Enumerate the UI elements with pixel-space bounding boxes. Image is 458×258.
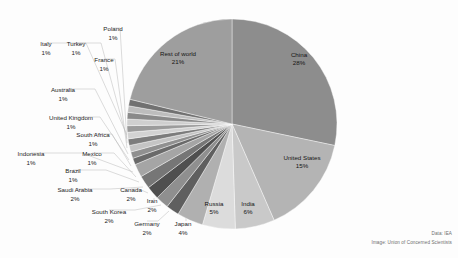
slice-label-percent: 15% [296,162,309,169]
slice-label-name: Russia [205,200,224,207]
slice-label-percent: 1% [27,159,36,166]
slice-label-percent: 1% [109,34,118,41]
slice-label-name: Mexico [82,150,102,157]
slice-label-percent: 21% [172,58,185,65]
slice-label-percent: 2% [71,195,80,202]
slice-label-name: Iran [147,197,158,204]
slice-label-name: South Africa [76,131,110,138]
slice-label-name: Saudi Arabia [57,186,93,193]
slice-label-name: India [241,200,255,207]
credit-image-source: Image: Union of Concerned Scientists [372,240,452,245]
slice-label-percent: 1% [100,65,109,72]
leader-line [73,170,139,182]
slice-label-name: Germany [134,220,160,227]
slice-label-name: United States [283,154,320,161]
slice-label-name: Italy [40,40,52,47]
slice-label-percent: 2% [148,206,157,213]
slice-label-name: Brazil [65,167,80,174]
leader-line [113,28,127,143]
pie-chart: China28%United States15%India6%Russia5%J… [0,0,458,258]
slice-label-percent: 2% [105,217,114,224]
slice-label-percent: 5% [210,208,219,215]
slice-label-percent: 1% [72,49,81,56]
slice-label-name: South Korea [92,208,127,215]
slice-label-percent: 6% [244,208,253,215]
slice-label-percent: 1% [89,140,98,147]
slice-label-name: Turkey [67,40,87,47]
slice-label-percent: 1% [42,49,51,56]
chart-canvas: China28%United States15%India6%Russia5%J… [0,0,458,258]
slice-label-name: Rest of world [160,50,197,57]
slice-label-name: China [291,51,308,58]
slice-label-name: Canada [120,186,142,193]
credit-data-source: Data: IEA [432,231,453,236]
slice-label-percent: 1% [67,123,76,130]
slice-label-name: Indonesia [18,150,45,157]
slice-label-percent: 1% [59,95,68,102]
pie-slice[interactable] [232,19,337,146]
slice-label-name: Japan [175,220,192,227]
slice-label-name: Australia [51,86,76,93]
slice-label-percent: 2% [143,229,152,236]
slice-label-name: Poland [103,25,123,32]
slice-label-percent: 1% [69,176,78,183]
slice-label-name: United Kingdom [49,114,93,121]
slice-label-name: France [94,56,114,63]
slice-label-percent: 4% [179,229,188,236]
slice-label-percent: 2% [127,195,136,202]
slice-label-percent: 28% [293,59,306,66]
slice-label-percent: 1% [88,159,97,166]
